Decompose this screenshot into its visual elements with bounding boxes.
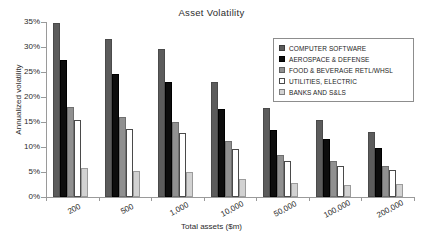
x-tick bbox=[256, 197, 257, 201]
y-tick bbox=[41, 22, 46, 23]
chart-legend: COMPUTER SOFTWAREAEROSPACE & DEFENSEFOOD… bbox=[273, 38, 414, 102]
bar bbox=[60, 60, 67, 198]
legend-label: FOOD & BEVERAGE RETL/WHSL bbox=[289, 67, 393, 74]
bar bbox=[232, 149, 239, 198]
legend-swatch-icon bbox=[279, 56, 285, 62]
y-tick bbox=[41, 122, 46, 123]
chart-title: Asset Volatility bbox=[0, 7, 423, 18]
asset-volatility-chart: Asset Volatility Annualized volatility T… bbox=[0, 0, 423, 239]
legend-swatch-icon bbox=[279, 78, 285, 84]
bar bbox=[119, 117, 126, 197]
bar bbox=[263, 108, 270, 197]
x-tick bbox=[99, 197, 100, 201]
bar bbox=[330, 161, 337, 198]
bar bbox=[158, 49, 165, 197]
x-tick bbox=[151, 197, 152, 201]
bar bbox=[81, 168, 88, 198]
x-tick-label: 100,000 bbox=[317, 196, 357, 223]
bar bbox=[368, 132, 375, 198]
bar bbox=[126, 129, 133, 198]
y-tick-label: 25% bbox=[2, 67, 40, 76]
y-tick bbox=[41, 172, 46, 173]
y-tick-label: 10% bbox=[2, 142, 40, 151]
legend-item[interactable]: AEROSPACE & DEFENSE bbox=[279, 54, 408, 64]
bar bbox=[67, 107, 74, 197]
bar bbox=[291, 183, 298, 198]
bar bbox=[270, 130, 277, 197]
y-tick-label: 0% bbox=[2, 192, 40, 201]
y-tick bbox=[41, 47, 46, 48]
x-tick-label: 500 bbox=[107, 196, 147, 223]
legend-label: BANKS AND S&LS bbox=[289, 89, 346, 96]
legend-label: UTILITIES, ELECTRIC bbox=[289, 78, 357, 85]
y-tick bbox=[41, 147, 46, 148]
x-tick bbox=[414, 197, 415, 201]
x-tick bbox=[361, 197, 362, 201]
x-tick bbox=[46, 197, 47, 201]
y-tick-label: 5% bbox=[2, 167, 40, 176]
legend-swatch-icon bbox=[279, 67, 285, 73]
x-axis-title: Total assets ($m) bbox=[0, 222, 423, 231]
legend-item[interactable]: COMPUTER SOFTWARE bbox=[279, 43, 408, 53]
bar bbox=[316, 120, 323, 198]
bar bbox=[218, 109, 225, 198]
bar bbox=[382, 166, 389, 197]
y-tick-label: 35% bbox=[2, 17, 40, 26]
bar bbox=[165, 82, 172, 197]
legend-item[interactable]: BANKS AND S&LS bbox=[279, 87, 408, 97]
bar bbox=[277, 155, 284, 198]
bar bbox=[105, 39, 112, 198]
bar bbox=[225, 141, 232, 197]
legend-item[interactable]: UTILITIES, ELECTRIC bbox=[279, 76, 408, 86]
y-axis-line bbox=[46, 22, 47, 197]
legend-swatch-icon bbox=[279, 89, 285, 95]
legend-label: AEROSPACE & DEFENSE bbox=[289, 56, 370, 63]
y-tick-label: 20% bbox=[2, 92, 40, 101]
bar bbox=[284, 161, 291, 197]
bar bbox=[74, 120, 81, 198]
x-tick-label: 200,000 bbox=[370, 196, 410, 223]
x-tick-label: 10,000 bbox=[212, 196, 252, 223]
bar bbox=[396, 184, 403, 198]
y-tick bbox=[41, 72, 46, 73]
bar bbox=[179, 133, 186, 198]
y-tick bbox=[41, 97, 46, 98]
bar bbox=[389, 170, 396, 197]
x-tick-label: 200 bbox=[55, 196, 95, 223]
x-axis-line bbox=[46, 197, 414, 198]
bar bbox=[323, 139, 330, 198]
x-tick-label: 1,000 bbox=[160, 196, 200, 223]
bar bbox=[375, 148, 382, 198]
x-tick bbox=[204, 197, 205, 201]
bar bbox=[186, 172, 193, 197]
bar bbox=[211, 82, 218, 198]
bar bbox=[239, 179, 246, 198]
bar bbox=[344, 185, 351, 198]
y-tick-label: 15% bbox=[2, 117, 40, 126]
x-tick bbox=[309, 197, 310, 201]
y-tick-label: 30% bbox=[2, 42, 40, 51]
bar bbox=[53, 23, 60, 197]
x-tick-label: 50,000 bbox=[265, 196, 305, 223]
bar bbox=[172, 122, 179, 197]
legend-item[interactable]: FOOD & BEVERAGE RETL/WHSL bbox=[279, 65, 408, 75]
bar bbox=[337, 166, 344, 198]
legend-label: COMPUTER SOFTWARE bbox=[289, 45, 366, 52]
bar bbox=[133, 171, 140, 198]
legend-swatch-icon bbox=[279, 45, 285, 51]
bar bbox=[112, 74, 119, 198]
